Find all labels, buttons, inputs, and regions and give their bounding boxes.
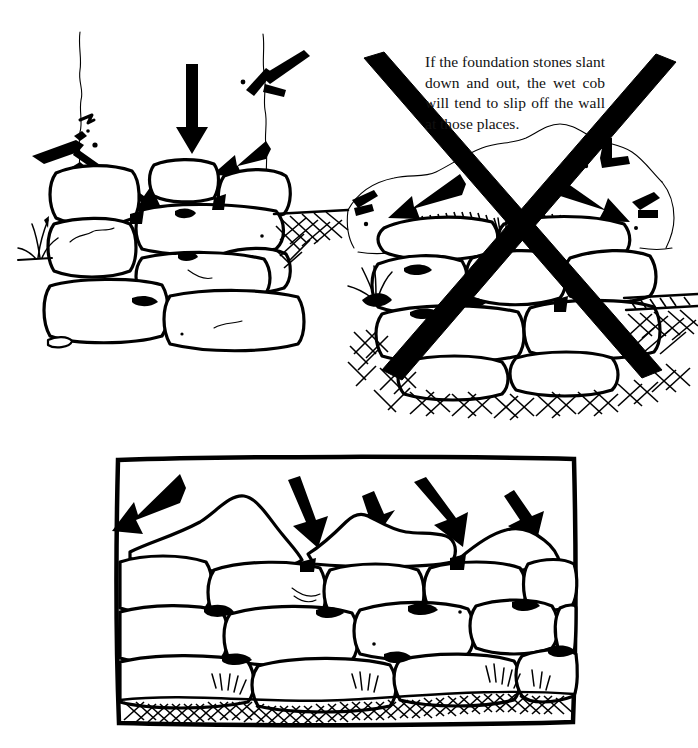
illustration-page: If the foundation stones slant down and … <box>0 0 698 748</box>
top-cut-text <box>60 0 480 8</box>
straw-detail-left-2 <box>352 190 378 226</box>
straw-detail-right <box>241 50 310 97</box>
load-arrow-1 <box>112 474 186 534</box>
load-arrow-2 <box>288 476 328 548</box>
load-arrow-center <box>176 64 208 154</box>
wall-section-drawing <box>108 448 586 736</box>
caption-text: If the foundation stones slant down and … <box>425 52 605 134</box>
good-foundation-svg <box>18 28 348 388</box>
kerb-stone <box>48 337 72 347</box>
ground-hatching-right <box>274 210 348 268</box>
wall-section-svg <box>108 448 586 736</box>
good-foundation-drawing <box>18 28 348 388</box>
